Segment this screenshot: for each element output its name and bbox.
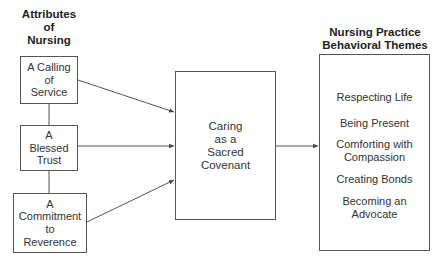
attribute-box-calling-of-service: A Calling of Service (20, 56, 78, 104)
themes-box: Respecting Life Being Present Comforting… (319, 54, 430, 251)
attribute-label: A Blessed Trust (29, 129, 68, 167)
attribute-label: A Calling of Service (27, 61, 70, 99)
theme-becoming-an-advocate: Becoming an Advocate (320, 195, 429, 220)
arrow-calling-to-center (78, 80, 174, 112)
attribute-label: A Commitment to Reverence (19, 198, 81, 248)
center-label: Caring as a Sacred Covenant (201, 120, 250, 172)
attribute-box-commitment-to-reverence: A Commitment to Reverence (13, 193, 87, 253)
center-box-caring-sacred-covenant: Caring as a Sacred Covenant (175, 71, 276, 220)
theme-respecting-life: Respecting Life (320, 91, 429, 104)
attribute-box-blessed-trust: A Blessed Trust (20, 125, 78, 171)
attributes-heading: Attributes of Nursing (10, 8, 88, 47)
arrow-commitment-to-center (87, 180, 174, 222)
theme-being-present: Being Present (320, 117, 429, 130)
theme-comforting-with-compassion: Comforting with Compassion (320, 138, 429, 163)
themes-heading: Nursing Practice Behavioral Themes (315, 26, 435, 52)
theme-creating-bonds: Creating Bonds (320, 173, 429, 186)
